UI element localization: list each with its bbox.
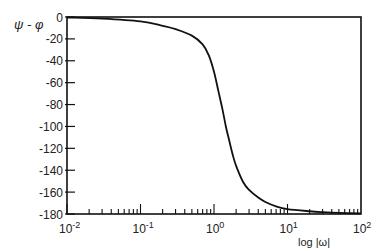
y-tick-label: -180 <box>39 208 63 222</box>
x-tick-label: 102 <box>353 220 371 236</box>
y-tick-label: -100 <box>39 120 63 134</box>
plot-frame <box>67 17 361 214</box>
y-axis-label: ψ - φ <box>14 17 44 32</box>
x-tick-label: 101 <box>280 220 298 236</box>
y-tick-label: -80 <box>46 98 64 112</box>
y-tick-label: 0 <box>56 11 63 25</box>
phase-curve <box>67 18 361 214</box>
y-tick-label: -40 <box>46 54 64 68</box>
y-tick-label: -160 <box>39 186 63 200</box>
y-tick-label: -20 <box>46 32 64 46</box>
x-tick-label: 10-1 <box>133 220 154 236</box>
y-tick-label: -60 <box>46 76 64 90</box>
x-axis-label: log |ω| <box>298 236 330 248</box>
y-axis-tick-labels: 0-20-40-60-80-100-120-140-160-180 <box>39 11 63 222</box>
phase-plot: 0-20-40-60-80-100-120-140-160-180 10-210… <box>0 0 381 251</box>
y-tick-label: -140 <box>39 164 63 178</box>
y-tick-label: -120 <box>39 142 63 156</box>
x-axis-tick-labels: 10-210-1100101102 <box>59 220 371 236</box>
x-tick-label: 10-2 <box>59 220 80 236</box>
x-tick-label: 100 <box>206 220 224 236</box>
